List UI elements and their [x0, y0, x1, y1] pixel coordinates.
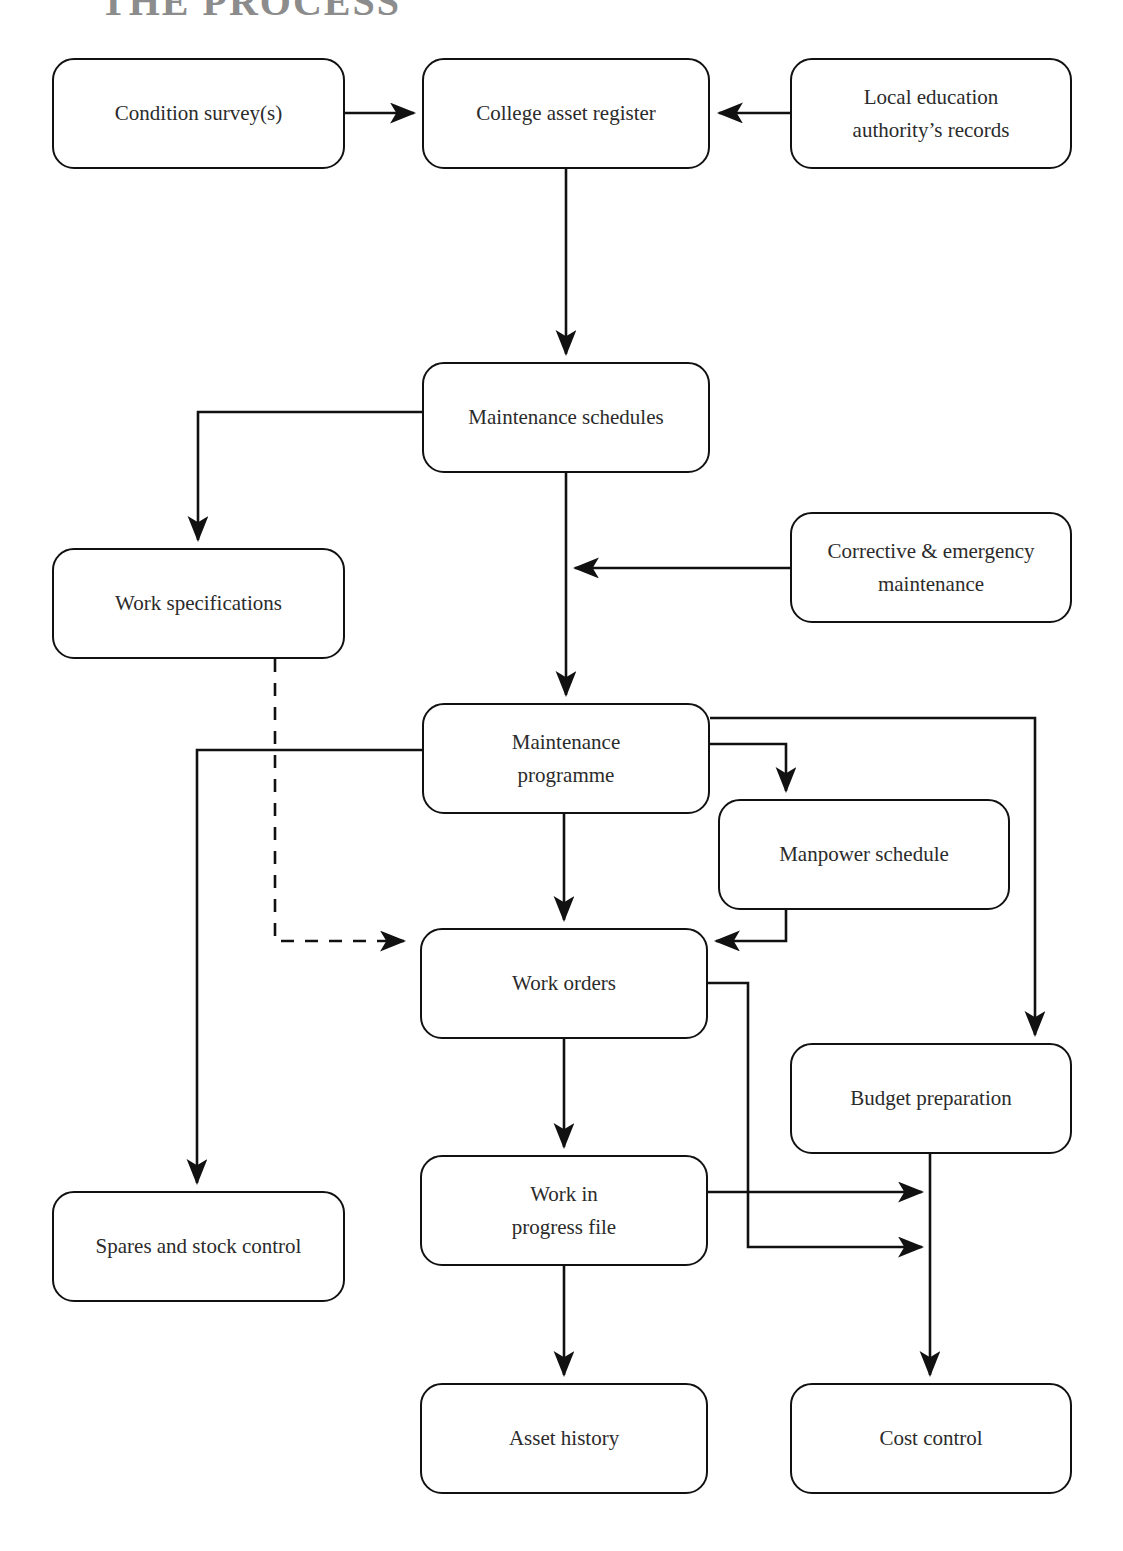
- node-maintenance-schedules[interactable]: Maintenance schedules: [422, 362, 710, 473]
- node-budget-preparation[interactable]: Budget preparation: [790, 1043, 1072, 1154]
- edge-maintenance-programme-to-manpower-schedule: [710, 744, 786, 791]
- edge-manpower-schedule-to-work-orders: [716, 910, 786, 941]
- page-title: THE PROCESS: [100, 0, 401, 25]
- node-spares-and-stock-control[interactable]: Spares and stock control: [52, 1191, 345, 1302]
- node-work-in-progress-file[interactable]: Work inprogress file: [420, 1155, 708, 1266]
- node-label: Work orders: [432, 967, 696, 1000]
- node-label: Cost control: [802, 1422, 1060, 1455]
- node-work-orders[interactable]: Work orders: [420, 928, 708, 1039]
- node-college-asset-register[interactable]: College asset register: [422, 58, 710, 169]
- node-label: Maintenance schedules: [434, 401, 698, 434]
- node-label: Work inprogress file: [432, 1178, 696, 1243]
- node-label: Maintenanceprogramme: [434, 726, 698, 791]
- node-label: Asset history: [432, 1422, 696, 1455]
- node-label: Spares and stock control: [64, 1230, 333, 1263]
- node-label: Local educationauthority’s records: [802, 81, 1060, 146]
- node-label: Budget preparation: [802, 1082, 1060, 1115]
- diagram-canvas: THE PROCESS: [0, 0, 1123, 1551]
- node-condition-survey[interactable]: Condition survey(s): [52, 58, 345, 169]
- node-label: College asset register: [434, 97, 698, 130]
- edge-maintenance-programme-to-spares-stock: [197, 750, 422, 1183]
- node-label: Manpower schedule: [730, 838, 998, 871]
- node-work-specifications[interactable]: Work specifications: [52, 548, 345, 659]
- node-label: Work specifications: [64, 587, 333, 620]
- node-corrective-emergency-maintenance[interactable]: Corrective & emergencymaintenance: [790, 512, 1072, 623]
- edge-maintenance-schedules-to-work-specifications: [198, 412, 422, 540]
- node-label: Condition survey(s): [64, 97, 333, 130]
- node-local-education-authority-records[interactable]: Local educationauthority’s records: [790, 58, 1072, 169]
- node-label: Corrective & emergencymaintenance: [802, 535, 1060, 600]
- node-cost-control[interactable]: Cost control: [790, 1383, 1072, 1494]
- node-asset-history[interactable]: Asset history: [420, 1383, 708, 1494]
- edge-work-specifications-to-work-orders: [275, 659, 404, 941]
- node-maintenance-programme[interactable]: Maintenanceprogramme: [422, 703, 710, 814]
- node-manpower-schedule[interactable]: Manpower schedule: [718, 799, 1010, 910]
